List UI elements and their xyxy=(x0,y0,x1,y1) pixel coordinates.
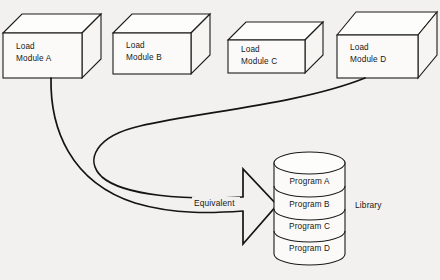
load-module-c-box: Load Module C xyxy=(228,22,323,73)
diagram-svg: Load Module A Load Module B Load Module … xyxy=(0,0,440,280)
library-label: Library xyxy=(355,200,382,210)
load-module-d-label-line2: Module D xyxy=(350,55,386,64)
load-module-a-label-line1: Load xyxy=(16,42,35,51)
load-module-b-box: Load Module B xyxy=(113,14,210,74)
load-module-b-label-line2: Module B xyxy=(126,53,162,62)
library-cylinder-top xyxy=(274,152,345,174)
program-c-label: Program C xyxy=(289,222,330,231)
program-a-label: Program A xyxy=(289,177,329,186)
program-b-label: Program B xyxy=(289,200,330,209)
load-module-a-box: Load Module A xyxy=(3,14,101,78)
diagram-canvas: Load Module A Load Module B Load Module … xyxy=(0,0,440,280)
library-cylinder: Program A Program B Program C Program D xyxy=(274,152,345,265)
flow-curve-from-module-a xyxy=(51,78,243,213)
equivalent-label: Equivalent xyxy=(194,198,235,208)
load-module-d-label-line1: Load xyxy=(350,43,369,52)
load-module-b-label-line1: Load xyxy=(126,41,145,50)
load-module-c-label-line2: Module C xyxy=(241,57,277,66)
program-d-label: Program D xyxy=(289,244,330,253)
load-module-c-label-line1: Load xyxy=(241,45,260,54)
equivalent-arrowhead xyxy=(243,169,277,244)
load-module-d-box: Load Module D xyxy=(337,12,437,78)
load-module-a-label-line2: Module A xyxy=(16,54,52,63)
